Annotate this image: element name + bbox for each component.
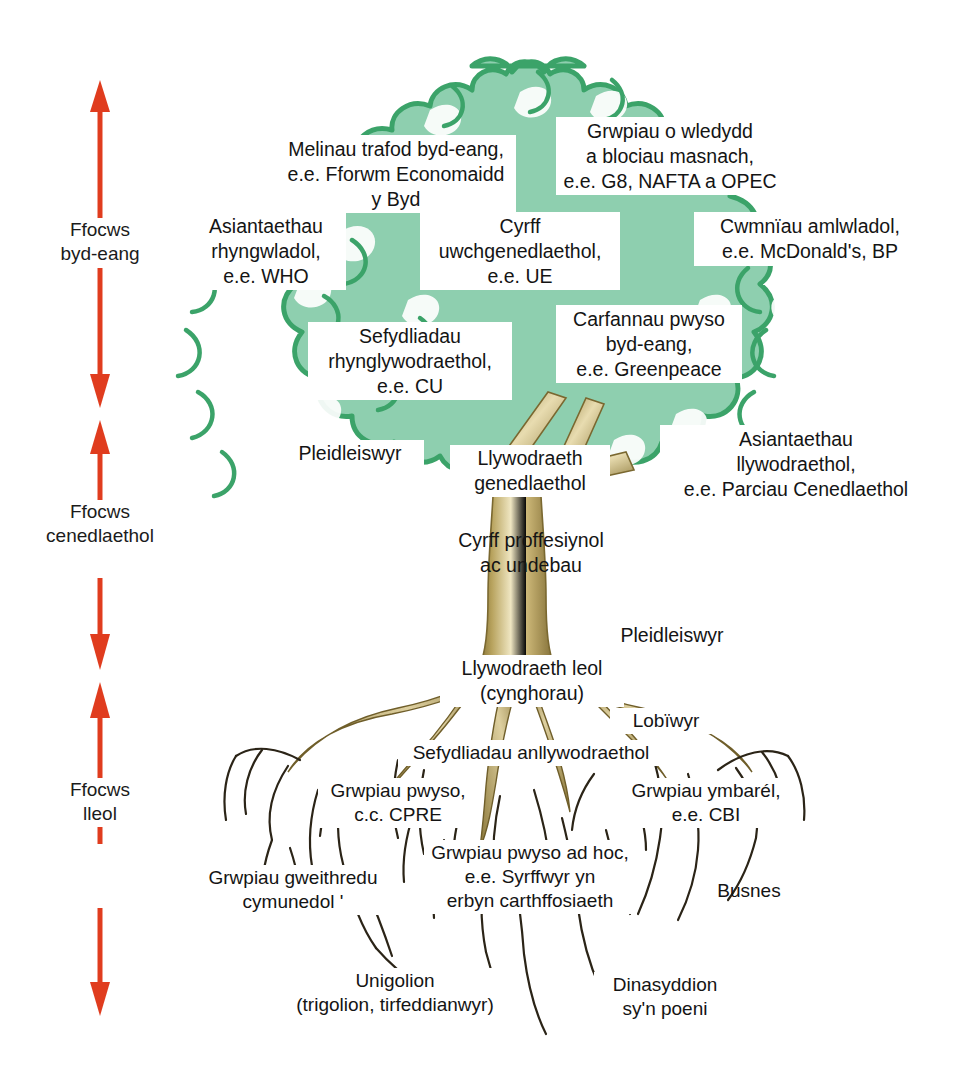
label-local-government: Llywodraeth leol (cynghorau) — [440, 655, 624, 707]
label-intergovernmental: Sefydliadau rhynglywodraethol, e.e. CU — [308, 322, 512, 400]
label-community-action: Grwpiau gweithredu cymunedol ' — [192, 865, 394, 915]
label-country-groups: Grwpiau o wledydd a blociau masnach, e.e… — [556, 117, 784, 195]
label-international-agencies: Asiantaethau rhyngwladol, e.e. WHO — [186, 212, 346, 290]
label-multinationals: Cwmnïau amlwladol, e.e. McDonald's, BP — [694, 212, 926, 266]
label-umbrella-groups: Grwpiau ymbarél, e.e. CBI — [618, 778, 794, 828]
diagram-canvas: Ffocws byd-eang Ffocws cenedlaethol Ffoc… — [0, 0, 955, 1084]
label-global-pressure-groups: Carfannau pwyso byd-eang, e.e. Greenpeac… — [556, 305, 742, 383]
label-business: Busnes — [700, 878, 798, 904]
label-ngos: Sefydliadau anllywodraethol — [398, 740, 664, 766]
label-concerned-citizens: Dinasyddion sy'n poeni — [594, 972, 736, 1022]
axis-label-local: Ffocws lleol — [30, 778, 170, 827]
label-supranational-bodies: Cyrff uwchgenedlaethol, e.e. UE — [420, 212, 620, 290]
label-voters-canopy: Pleidleiswyr — [276, 440, 424, 467]
label-lobbyists: Lobïwyr — [610, 708, 722, 734]
label-adhoc-pressure-groups: Grwpiau pwyso ad hoc, e.e. Syrffwyr yn e… — [424, 840, 636, 914]
label-national-government: Llywodraeth genedlaethol — [450, 445, 610, 497]
axis-label-global: Ffocws byd-eang — [30, 218, 170, 267]
label-pressure-groups: Grwpiau pwyso, c.c. CPRE — [318, 778, 478, 828]
label-think-tanks: Melinau trafod byd-eang, e.e. Fforwm Eco… — [276, 135, 516, 213]
axis-label-national: Ffocws cenedlaethol — [20, 500, 180, 549]
label-voters-trunk: Pleidleiswyr — [598, 622, 746, 649]
label-professional-bodies: Cyrff proffesiynol ac undebau — [434, 527, 628, 579]
label-government-agencies: Asiantaethau llywodraethol, e.e. Parciau… — [660, 425, 932, 503]
label-individuals: Unigolion (trigolion, tirfeddianwyr) — [266, 968, 524, 1018]
